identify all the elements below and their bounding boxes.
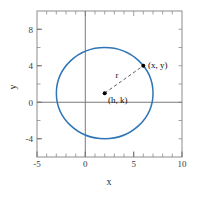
edge-point-label: (x, y)	[148, 60, 168, 70]
y-axis-title: y	[7, 85, 18, 90]
x-axis-title: x	[107, 176, 112, 187]
y-tick-label-0: -4	[26, 134, 34, 144]
x-tick-label-2: 5	[131, 159, 136, 169]
circle-geometry-figure: -5 0 5 10 -4 0 4 8 x y (h, k) (x, y) r	[0, 0, 199, 198]
y-tick-label-3: 8	[29, 25, 34, 35]
center-point-label: (h, k)	[108, 95, 128, 105]
x-tick-label-0: -5	[33, 159, 41, 169]
plot-canvas: -5 0 5 10 -4 0 4 8 x y (h, k) (x, y) r	[0, 0, 199, 198]
x-tick-label-3: 10	[178, 159, 188, 169]
x-tick-label-1: 0	[83, 159, 88, 169]
center-point-marker	[103, 91, 107, 95]
radius-label: r	[116, 70, 119, 80]
y-tick-label-2: 4	[29, 61, 34, 71]
y-tick-label-1: 0	[29, 98, 34, 108]
edge-point-marker	[141, 64, 145, 68]
